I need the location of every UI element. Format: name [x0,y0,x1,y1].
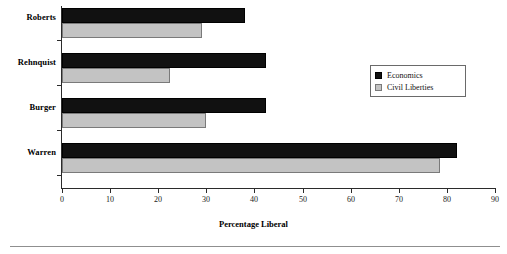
x-axis-tick-label: 60 [331,195,371,204]
x-axis-tick [495,189,496,193]
x-axis-tick [399,189,400,193]
x-axis-tick [351,189,352,193]
x-axis-title: Percentage Liberal [0,219,507,229]
y-axis-label-rehnquist: Rehnquist [0,57,56,67]
bar-group [62,8,495,38]
x-axis-tick [254,189,255,193]
chart-legend: Economics Civil Liberties [370,65,466,97]
bar-group [62,98,495,128]
y-axis-tick [57,40,62,41]
legend-item-economics: Economics [375,69,461,81]
y-axis-tick [57,175,62,176]
x-axis-tick-label: 70 [379,195,419,204]
bar-economics [62,98,266,113]
x-axis-tick [62,189,63,193]
x-axis-tick-label: 40 [234,195,274,204]
bar-economics [62,8,245,23]
legend-label-civil-liberties: Civil Liberties [387,83,433,92]
y-axis-label-burger: Burger [0,102,56,112]
x-axis-line [61,188,496,189]
x-axis-tick-label: 10 [90,195,130,204]
x-axis-tick [447,189,448,193]
bar-civil-liberties [62,23,202,38]
x-axis-tick-label: 50 [283,195,323,204]
x-axis-tick-label: 30 [186,195,226,204]
bar-civil-liberties [62,113,206,128]
legend-swatch-civil-liberties-icon [375,84,382,91]
x-axis-tick [158,189,159,193]
footer-divider [10,246,500,247]
bar-civil-liberties [62,158,440,173]
legend-label-economics: Economics [387,71,423,80]
bar-economics [62,143,457,158]
bar-chart-figure: 0102030405060708090 RobertsRehnquistBurg… [0,0,507,254]
bar-civil-liberties [62,68,170,83]
y-axis-label-roberts: Roberts [0,12,56,22]
legend-swatch-economics-icon [375,72,382,79]
bar-economics [62,53,266,68]
y-axis-tick [57,130,62,131]
x-axis-tick-label: 20 [138,195,178,204]
y-axis-label-warren: Warren [0,147,56,157]
x-axis-tick-label: 80 [427,195,467,204]
y-axis-tick [57,85,62,86]
x-axis-tick [110,189,111,193]
legend-item-civil-liberties: Civil Liberties [375,81,461,93]
x-axis-tick-label: 90 [475,195,507,204]
x-axis-tick-label: 0 [42,195,82,204]
x-axis-tick [206,189,207,193]
bar-group [62,143,495,173]
plot-area [62,6,495,188]
x-axis-tick [303,189,304,193]
